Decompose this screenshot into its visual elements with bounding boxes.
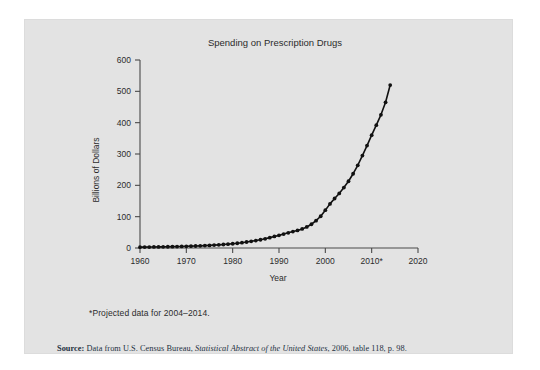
data-point xyxy=(388,83,392,87)
data-point xyxy=(259,238,263,242)
data-point xyxy=(240,241,244,245)
data-point xyxy=(245,240,249,244)
footnote-projected-data: *Projected data for 2004–2014. xyxy=(89,308,210,318)
y-axis-tick-labels: 0100200300400500600 xyxy=(117,55,131,253)
source-citation: Source: Data from U.S. Census Bureau, St… xyxy=(57,344,407,353)
x-axis-ticks xyxy=(140,248,418,253)
y-tick-label: 200 xyxy=(117,180,131,190)
x-tick-label: 2000 xyxy=(316,256,335,266)
data-point xyxy=(138,245,142,249)
chart-title: Spending on Prescription Drugs xyxy=(208,37,342,48)
data-point xyxy=(314,219,318,223)
prescription-drug-spending-chart: Spending on Prescription Drugs Billions … xyxy=(25,20,512,353)
x-tick-label: 1970 xyxy=(177,256,196,266)
y-tick-label: 600 xyxy=(117,55,131,65)
data-point xyxy=(365,144,369,148)
data-point xyxy=(226,242,230,246)
source-title-italic: Statistical Abstract of the United State… xyxy=(195,344,328,353)
data-point xyxy=(374,123,378,127)
data-point xyxy=(171,245,175,249)
y-tick-label: 100 xyxy=(117,212,131,222)
data-point xyxy=(231,242,235,246)
source-label: Source: xyxy=(57,344,84,353)
data-point xyxy=(180,245,184,249)
data-point xyxy=(249,239,253,243)
data-point xyxy=(286,231,290,235)
data-point xyxy=(379,113,383,117)
data-point xyxy=(328,202,332,206)
data-point xyxy=(222,243,226,247)
data-point xyxy=(296,229,300,233)
data-point xyxy=(166,245,170,249)
source-text-before: Data from U.S. Census Bureau, xyxy=(84,344,195,353)
data-point xyxy=(356,163,360,167)
y-axis-ticks xyxy=(135,60,140,248)
data-point xyxy=(282,232,286,236)
data-point xyxy=(370,133,374,137)
x-tick-label: 1990 xyxy=(270,256,289,266)
data-point xyxy=(272,235,276,239)
data-point xyxy=(143,245,147,249)
data-point xyxy=(351,172,355,176)
data-point xyxy=(323,208,327,212)
x-tick-label: 1960 xyxy=(131,256,150,266)
data-point xyxy=(212,243,216,247)
data-series-line xyxy=(140,85,390,247)
data-point xyxy=(347,179,351,183)
x-tick-label: 2010* xyxy=(361,256,384,266)
data-point xyxy=(337,192,341,196)
data-point xyxy=(268,236,272,240)
y-tick-label: 500 xyxy=(117,86,131,96)
data-point xyxy=(342,186,346,190)
data-point xyxy=(254,239,258,243)
data-point xyxy=(152,245,156,249)
data-point xyxy=(305,225,309,229)
data-point xyxy=(361,154,365,158)
data-series-points xyxy=(138,83,392,249)
y-axis-title: Billions of Dollars xyxy=(91,137,101,202)
data-point xyxy=(203,244,207,248)
data-point xyxy=(333,197,337,201)
data-point xyxy=(157,245,161,249)
data-point xyxy=(319,214,323,218)
data-point xyxy=(263,237,267,241)
data-point xyxy=(194,244,198,248)
x-tick-label: 2020 xyxy=(409,256,428,266)
data-point xyxy=(277,233,281,237)
data-point xyxy=(300,227,304,231)
y-tick-label: 0 xyxy=(126,243,131,253)
data-point xyxy=(291,230,295,234)
data-point xyxy=(310,222,314,226)
x-tick-label: 1980 xyxy=(223,256,242,266)
data-point xyxy=(235,241,239,245)
data-point xyxy=(175,245,179,249)
data-point xyxy=(184,244,188,248)
data-point xyxy=(189,244,193,248)
y-tick-label: 300 xyxy=(117,149,131,159)
x-axis-tick-labels: 196019701980199020002010*2020 xyxy=(131,256,428,266)
data-point xyxy=(198,244,202,248)
x-axis-title: Year xyxy=(269,273,286,283)
data-point xyxy=(208,244,212,248)
data-point xyxy=(147,245,151,249)
y-tick-label: 400 xyxy=(117,118,131,128)
source-text-after: , 2006, table 118, p. 98. xyxy=(328,344,407,353)
data-point xyxy=(384,100,388,104)
data-point xyxy=(161,245,165,249)
figure-card: Spending on Prescription Drugs Billions … xyxy=(25,20,512,353)
data-point xyxy=(217,243,221,247)
